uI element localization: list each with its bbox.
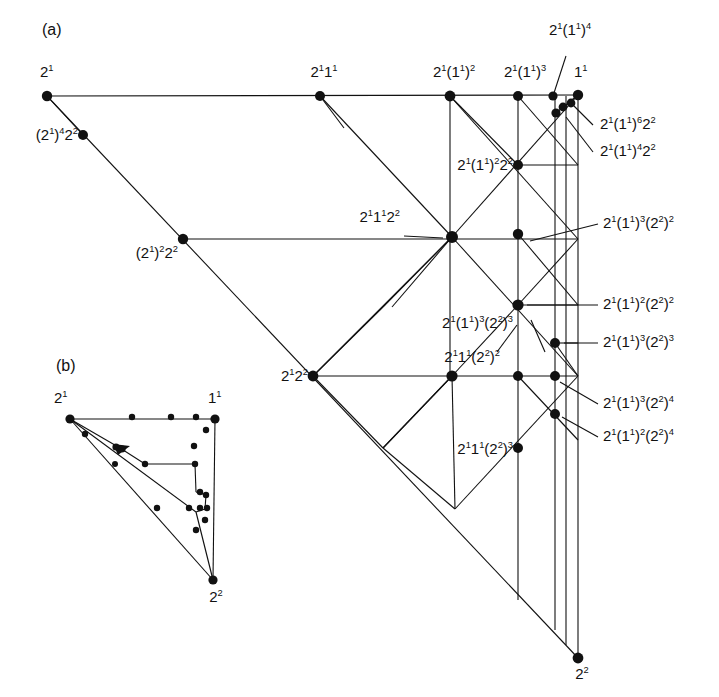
node-2-1-11-6-2-2 bbox=[567, 99, 576, 108]
node-chain-c bbox=[559, 103, 568, 112]
node-2-1-11-2 bbox=[445, 91, 456, 102]
node-2-1-4-2-2 bbox=[78, 130, 88, 140]
node-b-r-4 bbox=[203, 492, 209, 498]
label-2-1-2-2: 2122 bbox=[281, 368, 308, 383]
node-b-l-2 bbox=[112, 461, 118, 467]
leader-11-4-22 bbox=[566, 117, 593, 152]
node-b-r-1 bbox=[203, 427, 209, 433]
node-2-1-11-3-2-2-2 bbox=[513, 229, 523, 239]
label-b-2-2: 22 bbox=[209, 589, 223, 604]
node-b-tri-2 bbox=[118, 445, 125, 452]
diag-dl-383 bbox=[313, 307, 383, 376]
node-2-1 bbox=[42, 91, 52, 101]
node-2-1-11-3-2-2-4 bbox=[550, 371, 560, 381]
node-b-2-2 bbox=[208, 575, 217, 584]
label-2-1-1-1-2-2: 211122 bbox=[359, 209, 400, 224]
edge-top bbox=[47, 95, 578, 96]
node-2-1-2-2 bbox=[308, 371, 319, 382]
label-2-1-4-2-2: (21)422 bbox=[36, 127, 78, 142]
node-2-1-11-2-2-2 bbox=[513, 160, 523, 170]
diag-dl-452b bbox=[383, 376, 452, 448]
node-b-b-4 bbox=[204, 505, 210, 511]
label-2-1-2-2-2: (21)222 bbox=[136, 245, 178, 260]
label-1-1-top-right: 11 bbox=[574, 64, 588, 79]
node-2-1-11-3-2-2-3 bbox=[550, 338, 560, 348]
panel-b-tag: (b) bbox=[56, 358, 76, 374]
node-2-1-11-4 bbox=[548, 91, 557, 100]
node-b-r-2 bbox=[191, 443, 197, 449]
leader-2-1-1-1 bbox=[320, 96, 344, 128]
diag-up-392 bbox=[392, 237, 452, 307]
node-b-r-3 bbox=[197, 489, 203, 495]
panel-a-tag: (a) bbox=[42, 22, 62, 38]
figure-root: (a) 21 (21)422 (21)222 2122 2111 21(11)2… bbox=[0, 0, 719, 697]
node-2-1-1-1-2-2-3 bbox=[513, 443, 523, 453]
label-2-1-11-3-2-2-2: 21(11)3(22)2 bbox=[603, 215, 674, 230]
node-2-1-1-1-2-2 bbox=[446, 231, 458, 243]
node-b-top-2 bbox=[168, 414, 174, 420]
node-row-c bbox=[513, 371, 523, 381]
node-b-b-2 bbox=[186, 505, 192, 511]
edge-b-spur4 bbox=[195, 464, 196, 492]
node-2-1-1-1 bbox=[315, 91, 325, 101]
node-b-2-1 bbox=[65, 414, 74, 423]
label-2-1-11-4-2-2: 21(11)422 bbox=[600, 143, 656, 158]
edge-b-spur1 bbox=[70, 419, 120, 448]
leader-11-2-22-4 bbox=[562, 417, 598, 437]
node-2-1-1-1-2-2-2 bbox=[446, 370, 457, 381]
node-2-2-bottom bbox=[573, 653, 584, 664]
node-b-mid-1 bbox=[142, 461, 148, 467]
label-2-1-11-2-2-2-2: 21(11)2(22)2 bbox=[603, 296, 674, 311]
diag-dl-383b bbox=[383, 448, 455, 509]
leader-11-6-22 bbox=[571, 103, 593, 125]
label-2-1-11-6-2-2: 21(11)622 bbox=[600, 116, 656, 131]
node-b-b-1 bbox=[154, 505, 160, 511]
label-2-1-1-1: 2111 bbox=[310, 64, 337, 79]
diag-dl-452c bbox=[452, 376, 455, 509]
node-2-1-11-2-2-2-4 bbox=[550, 409, 560, 419]
leader-2-1-1-2-2 bbox=[404, 236, 443, 238]
label-2-2-bottom: 22 bbox=[575, 666, 589, 681]
label-2-1-1-1-2-2-2: 2111(22)2 bbox=[444, 349, 500, 364]
diag-dl-452 bbox=[383, 237, 452, 307]
edge-b-right bbox=[213, 419, 215, 580]
diag-down-450a bbox=[450, 96, 518, 165]
label-2-1-11-2: 21(11)2 bbox=[433, 64, 475, 79]
label-2-1-11-3-2-2-3-inner: 21(11)3(22)3 bbox=[442, 315, 513, 330]
node-2-1-11-3 bbox=[513, 91, 523, 101]
node-1-1 bbox=[573, 90, 583, 100]
node-b-b-5 bbox=[202, 517, 208, 523]
label-2-1-11-4: 21(11)4 bbox=[549, 22, 591, 37]
node-b-top-1 bbox=[129, 414, 135, 420]
label-b-2-1: 21 bbox=[54, 390, 68, 405]
leader-11-3-22-3-inner2 bbox=[531, 320, 545, 352]
label-2-1-11-2-2-2-4: 21(11)2(22)4 bbox=[603, 428, 674, 443]
label-2-1-11-3: 21(11)3 bbox=[504, 64, 546, 79]
label-2-1-11-3-2-2-3: 21(11)3(22)3 bbox=[603, 334, 674, 349]
node-2-1-2-2-2 bbox=[178, 234, 188, 244]
node-2-1-11-4-2-2 bbox=[551, 108, 560, 117]
node-b-b-6 bbox=[193, 527, 199, 533]
edge-b-spur9 bbox=[70, 419, 196, 512]
node-b-b-3 bbox=[197, 505, 203, 511]
label-2-1-top-left: 21 bbox=[40, 64, 54, 79]
label-2-1-1-1-2-2-3: 2111(22)3 bbox=[457, 441, 513, 456]
node-b-mid-2 bbox=[192, 461, 198, 467]
node-b-1-1 bbox=[210, 414, 219, 423]
node-2-1-11-2-2-2-2 bbox=[512, 299, 523, 310]
label-2-1-11-3-2-2-4: 21(11)3(22)4 bbox=[603, 395, 674, 410]
node-b-l-1 bbox=[82, 431, 88, 437]
leader-2-1-11-4 bbox=[553, 56, 566, 96]
label-b-1-1: 11 bbox=[208, 390, 222, 405]
label-2-1-11-2-2-2: 21(11)222 bbox=[457, 157, 513, 172]
node-b-top-3 bbox=[193, 414, 199, 420]
edge-b-left bbox=[70, 419, 213, 580]
diag-dl-313 bbox=[313, 376, 383, 448]
